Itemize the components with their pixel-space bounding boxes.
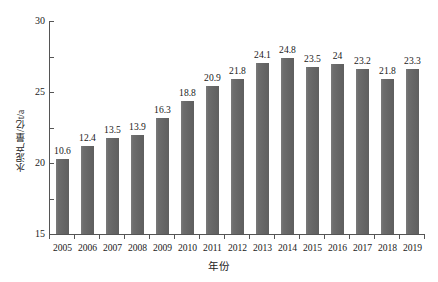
y-axis-tick: 0 (50, 234, 54, 235)
bar (381, 79, 394, 234)
y-axis-tick-label: 30 (23, 16, 45, 26)
x-axis-tick-label: 2019 (396, 242, 430, 253)
bar-series: 10.612.413.513.916.318.820.921.824.124.8… (50, 21, 425, 234)
bar-value-label: 23.2 (346, 56, 380, 66)
x-axis-line (49, 234, 425, 235)
x-axis-tick (424, 235, 425, 239)
bar (256, 63, 269, 234)
bar (106, 138, 119, 234)
x-axis-tick (299, 235, 300, 239)
bar (131, 135, 144, 234)
x-axis-tick (399, 235, 400, 239)
y-axis-tick-label: 20 (23, 158, 45, 168)
x-axis-tick (349, 235, 350, 239)
x-axis-tick (124, 235, 125, 239)
bar (406, 69, 419, 234)
x-axis-tick (249, 235, 250, 239)
x-axis-tick (74, 235, 75, 239)
bar-value-label: 13.9 (121, 122, 155, 132)
bar-chart: 水泥产量/亿t/a 051015202530 10.612.413.513.91… (0, 0, 438, 282)
x-axis-tick (374, 235, 375, 239)
bar (81, 146, 94, 234)
x-axis-tick (174, 235, 175, 239)
x-axis-tick (324, 235, 325, 239)
bar (281, 58, 294, 234)
bar-value-label: 23.3 (396, 56, 430, 66)
bar-value-label: 16.3 (146, 105, 180, 115)
x-axis-tick (224, 235, 225, 239)
y-axis-title: 水泥产量/亿t/a (14, 93, 28, 189)
x-axis-tick (99, 235, 100, 239)
bar (181, 101, 194, 234)
bar (231, 79, 244, 234)
y-axis-tick-label: 15 (23, 229, 45, 239)
x-axis-title: 年份 (0, 258, 438, 273)
bar-value-label: 21.8 (221, 66, 255, 76)
bar (56, 159, 69, 234)
bar (306, 67, 319, 234)
bar-value-label: 21.8 (371, 66, 405, 76)
x-axis-tick (49, 235, 50, 239)
bar (331, 64, 344, 234)
bar (206, 86, 219, 234)
x-axis-tick (274, 235, 275, 239)
y-axis-tick-label: 25 (23, 87, 45, 97)
x-axis-tick (199, 235, 200, 239)
bar (156, 118, 169, 234)
x-axis-tick (149, 235, 150, 239)
bar-value-label: 18.8 (171, 88, 205, 98)
bar-value-label: 10.6 (46, 146, 80, 156)
bar (356, 69, 369, 234)
plot-area: 051015202530 10.612.413.513.916.318.820.… (49, 21, 424, 234)
